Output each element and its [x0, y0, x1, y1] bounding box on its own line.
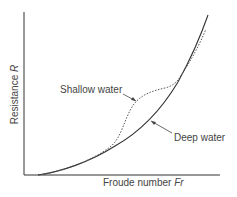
shallow-water-label: Shallow water — [60, 84, 122, 95]
x-axis-label: Froude number Fr — [103, 177, 184, 188]
y-axis-label: Resistance R — [9, 55, 20, 135]
deep-water-label: Deep water — [174, 132, 225, 143]
deep-water-arrowhead — [151, 121, 156, 125]
shallow-water-arrowhead — [131, 97, 136, 101]
y-axis-symbol: R — [9, 65, 20, 72]
shallow-water-curve — [38, 29, 206, 175]
y-axis-label-text: Resistance — [9, 72, 20, 124]
x-axis-symbol: Fr — [174, 177, 183, 188]
x-axis-label-text: Froude number — [103, 177, 174, 188]
resistance-chart — [0, 0, 237, 197]
deep-water-curve — [38, 15, 208, 175]
